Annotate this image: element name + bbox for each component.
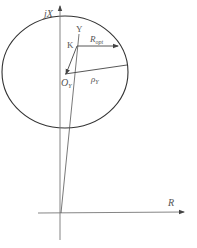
jx-axis-label: jX bbox=[42, 8, 54, 19]
rho-label: ρY bbox=[90, 74, 99, 85]
rho-radius bbox=[65, 65, 127, 74]
point-o-label: OY bbox=[61, 77, 72, 89]
r-axis-label: R bbox=[167, 197, 174, 208]
point-y-label: Y bbox=[76, 24, 83, 34]
point-k-label: K bbox=[67, 40, 74, 50]
y-line bbox=[61, 34, 79, 213]
impedance-circle bbox=[2, 16, 128, 128]
r-opt-label: Ropt bbox=[89, 34, 104, 45]
impedance-diagram: jX R Y K OY Ropt ρY bbox=[0, 0, 197, 248]
